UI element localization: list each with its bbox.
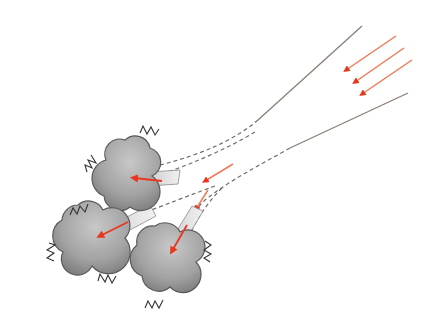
radiation-absorption-diagram	[0, 0, 440, 335]
vibration-icon	[47, 243, 55, 261]
particle-left	[53, 201, 130, 275]
arrow-icon	[205, 164, 233, 181]
vibration-icon	[140, 126, 159, 135]
arrow-icon	[346, 36, 396, 70]
arrow-icon	[355, 48, 404, 82]
vibration-icon	[145, 300, 163, 308]
vibration-icon	[98, 274, 116, 283]
particle-top	[92, 136, 162, 211]
beam-boundary	[130, 26, 408, 250]
arrow-icon	[362, 60, 412, 94]
particle-bottom	[130, 223, 205, 293]
diagram-canvas	[0, 0, 440, 335]
